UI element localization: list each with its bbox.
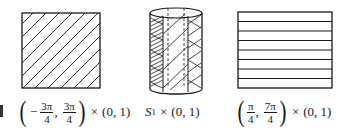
times-sign: × xyxy=(292,104,299,120)
fraction: 3π 4 xyxy=(63,100,76,125)
denominator: 4 xyxy=(43,113,51,125)
denominator: 4 xyxy=(267,113,275,125)
comma: , xyxy=(54,104,57,120)
interval: (0, 1) xyxy=(303,104,331,120)
numerator: π xyxy=(247,100,255,113)
left-panel-label: ( − 3π 4 , 3π 4 ) × (0, 1) xyxy=(18,96,130,128)
interval: (0, 1) xyxy=(102,104,130,120)
right-hatched-rectangle xyxy=(238,12,332,88)
left-hatched-rectangle xyxy=(22,12,163,90)
times-sign: × xyxy=(160,104,167,120)
close-paren: ) xyxy=(78,96,85,126)
open-paren: ( xyxy=(238,96,245,126)
numerator: 7π xyxy=(264,100,277,113)
fraction: π 4 xyxy=(247,100,255,125)
times-sign: × xyxy=(91,104,98,120)
fraction: 7π 4 xyxy=(264,100,277,125)
denominator: 4 xyxy=(247,113,255,125)
fraction: 3π 4 xyxy=(40,100,53,125)
interval: (0, 1) xyxy=(171,104,199,120)
middle-panel-label: S 1 × (0, 1) xyxy=(145,96,200,128)
numerator: 3π xyxy=(63,100,76,113)
subscript: 1 xyxy=(152,107,157,117)
cylinder-drawing xyxy=(150,8,202,94)
comma: , xyxy=(256,104,259,120)
open-paren: ( xyxy=(20,96,27,126)
right-panel-label: ( π 4 , 7π 4 ) × (0, 1) xyxy=(236,96,331,128)
close-paren: ) xyxy=(279,96,286,126)
numerator: 3π xyxy=(40,100,53,113)
minus-sign: − xyxy=(30,104,37,120)
denominator: 4 xyxy=(65,113,73,125)
